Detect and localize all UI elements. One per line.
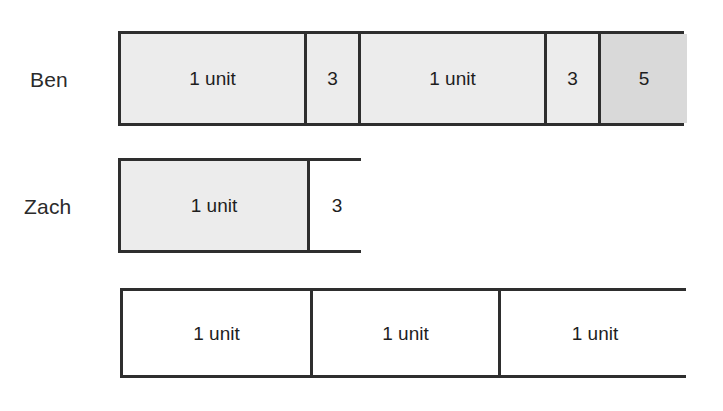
- tape-cell: 1 unit: [361, 34, 547, 123]
- tape-cell: 1 unit: [313, 291, 501, 375]
- tape-cell: 3: [310, 161, 364, 250]
- row-label-ben: Ben: [30, 69, 68, 90]
- tape-diagram-figure: Ben1 unit31 unit35Zach1 unit31 unit1 uni…: [0, 0, 723, 411]
- tape-bar-1: 1 unit31 unit35: [118, 31, 684, 126]
- tape-cell: 5: [601, 34, 687, 123]
- tape-bar-2: 1 unit3: [118, 158, 361, 253]
- tape-cell: 1 unit: [123, 291, 313, 375]
- tape-bar-3: 1 unit1 unit1 unit: [120, 288, 686, 378]
- tape-cell: 1 unit: [501, 291, 689, 375]
- row-label-zach: Zach: [24, 196, 72, 217]
- tape-cell: 1 unit: [121, 161, 310, 250]
- tape-cell: 3: [547, 34, 601, 123]
- tape-cell: 3: [307, 34, 361, 123]
- tape-cell: 1 unit: [121, 34, 307, 123]
